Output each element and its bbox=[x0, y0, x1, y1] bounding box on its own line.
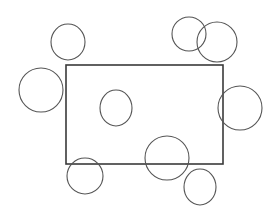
diagram-canvas bbox=[0, 0, 279, 217]
background bbox=[0, 0, 279, 217]
